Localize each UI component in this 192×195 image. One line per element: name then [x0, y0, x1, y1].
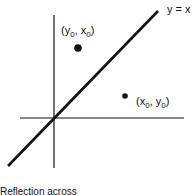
- point-original-label: (x0, y0): [136, 96, 169, 110]
- point-original: [122, 93, 128, 99]
- paren-close: ): [166, 95, 170, 107]
- point-reflected: [74, 44, 82, 52]
- caption: Reflection across: [0, 186, 77, 195]
- line-label: y = x: [167, 4, 191, 15]
- point-reflected-label: (y0, x0): [61, 25, 94, 39]
- paren-close: ): [91, 24, 95, 36]
